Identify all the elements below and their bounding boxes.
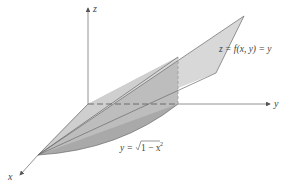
curve-label-radicand: 1 − x [141, 143, 161, 153]
diagram-canvas: z y x z = f(x, y) = y y = 1 − x 2 [0, 0, 284, 184]
x-axis [20, 155, 38, 175]
surface-upper-edge [38, 16, 244, 155]
y-axis-label: y [273, 98, 279, 109]
x-axis-label: x [7, 171, 13, 182]
curve-label-prefix: y = [119, 143, 133, 153]
surface-equation-label: z = f(x, y) = y [218, 44, 272, 55]
curve-equation-label: y = 1 − x 2 [119, 141, 163, 153]
z-axis-label: z [92, 3, 97, 14]
curve-label-exponent: 2 [160, 141, 163, 147]
